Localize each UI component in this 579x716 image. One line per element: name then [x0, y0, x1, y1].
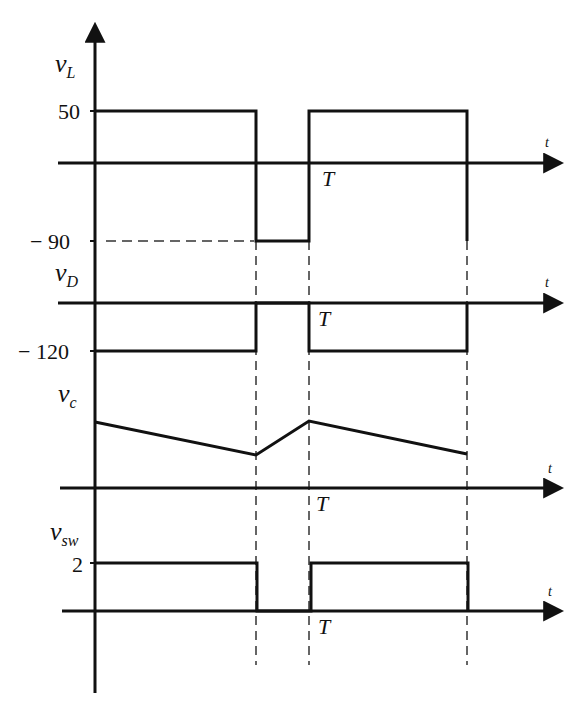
level-2-label: 2: [72, 552, 83, 577]
t-label-vD: t: [545, 275, 550, 290]
t-label-vsw: t: [548, 584, 553, 599]
T-label-vL: T: [322, 166, 336, 191]
T-label-vsw: T: [318, 614, 332, 639]
T-label-vc: T: [316, 491, 330, 516]
label-vsw: vsw: [50, 517, 79, 549]
panel-vD: vD − 120 t T: [18, 258, 560, 364]
label-vL: vL: [55, 49, 76, 81]
T-label-vD: T: [318, 306, 332, 331]
label-vc: vc: [58, 379, 77, 411]
t-label-vL: t: [545, 135, 550, 150]
time-guides: [256, 241, 467, 665]
waveform-vsw: [95, 563, 468, 611]
waveform-vD: [95, 303, 467, 351]
level-50-label: 50: [58, 99, 80, 124]
panel-vL: vL 50 − 90 t T: [30, 49, 560, 254]
level-neg120-label: − 120: [18, 339, 69, 364]
label-vD: vD: [55, 258, 79, 290]
level-neg90-label: − 90: [30, 229, 70, 254]
waveform-vL: [95, 111, 467, 241]
waveform-vc: [95, 421, 467, 455]
t-label-vc: t: [548, 461, 553, 476]
panel-vsw: vsw 2 t T: [50, 517, 560, 639]
waveform-diagram: vL 50 − 90 t T vD − 120 t T vc t T vsw 2…: [0, 0, 579, 716]
